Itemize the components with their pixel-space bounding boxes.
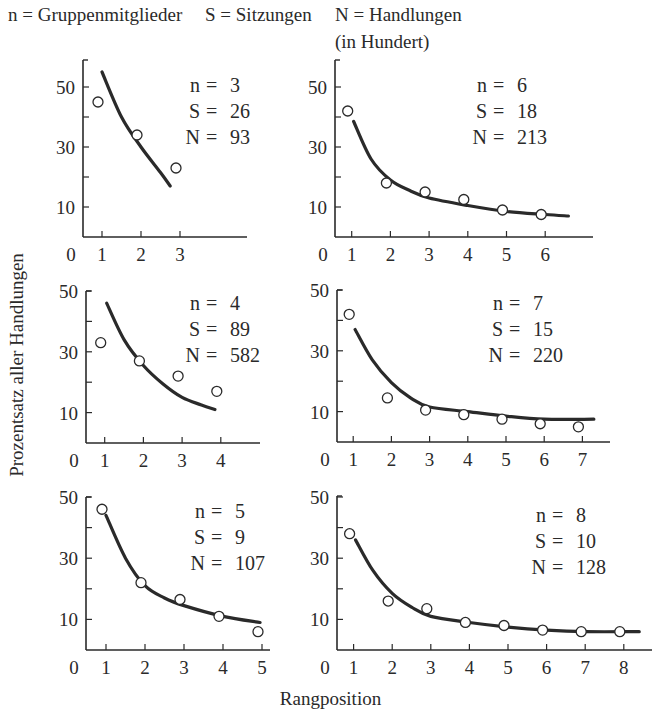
data-point xyxy=(253,627,263,637)
annotation-eq: = xyxy=(211,526,222,548)
y-tick-label: 50 xyxy=(56,77,75,98)
x-tick-label: 7 xyxy=(578,449,588,470)
data-point xyxy=(535,419,545,429)
data-point xyxy=(536,210,546,220)
x-tick-label: 6 xyxy=(540,244,550,265)
x-tick-label: 3 xyxy=(175,244,185,265)
y-tick-label: 10 xyxy=(310,609,329,630)
annotation-value: 3 xyxy=(230,74,240,96)
x-tick-label: 2 xyxy=(136,244,146,265)
y-tick-label: 30 xyxy=(310,548,329,569)
x-tick-label: 1 xyxy=(101,657,111,678)
data-point xyxy=(538,625,548,635)
x-tick-label: 3 xyxy=(177,450,187,471)
annotation-value: 6 xyxy=(517,74,527,96)
annotation-value: 582 xyxy=(230,344,260,366)
annotation-eq: = xyxy=(552,504,563,526)
x-tick-label: 4 xyxy=(463,449,473,470)
annotation-value: 7 xyxy=(533,292,543,314)
annotation-eq: = xyxy=(509,318,520,340)
data-point xyxy=(381,178,391,188)
y-tick-label: 50 xyxy=(308,77,327,98)
annotation-eq: = xyxy=(206,74,217,96)
data-point xyxy=(460,617,470,627)
fit-curve xyxy=(102,72,170,186)
data-point xyxy=(459,410,469,420)
annotation-eq: = xyxy=(206,318,217,340)
x-tick-label: 0 xyxy=(66,244,76,265)
annotation-eq: = xyxy=(493,126,504,148)
data-point xyxy=(615,627,625,637)
data-point xyxy=(93,97,103,107)
annotation-eq: = xyxy=(552,556,563,578)
data-point xyxy=(344,309,354,319)
data-point xyxy=(97,504,107,514)
annotation-eq: = xyxy=(493,100,504,122)
annotation-key: N xyxy=(473,126,487,148)
y-tick-label: 10 xyxy=(59,609,78,630)
annotation-key: n xyxy=(477,74,487,96)
x-tick-label: 0 xyxy=(69,450,79,471)
annotation-key: n xyxy=(190,292,200,314)
x-tick-label: 0 xyxy=(69,657,79,678)
annotation-value: 128 xyxy=(576,556,606,578)
data-point xyxy=(343,106,353,116)
y-tick-label: 10 xyxy=(59,403,78,424)
data-point xyxy=(499,621,509,631)
x-tick-label: 1 xyxy=(100,450,110,471)
x-tick-label: 0 xyxy=(318,244,328,265)
data-point xyxy=(173,371,183,381)
x-tick-label: 5 xyxy=(503,657,513,678)
annotation-eq: = xyxy=(552,530,563,552)
data-point xyxy=(175,595,185,605)
annotation-eq: = xyxy=(206,344,217,366)
data-point xyxy=(383,596,393,606)
data-point xyxy=(497,414,507,424)
data-point xyxy=(573,422,583,432)
x-tick-label: 0 xyxy=(320,657,330,678)
x-tick-label: 2 xyxy=(139,450,149,471)
x-tick-label: 4 xyxy=(216,450,226,471)
y-tick-label: 50 xyxy=(310,280,329,301)
y-tick-label: 30 xyxy=(308,137,327,158)
panel-row1-left: 1030500123n=3S=26N=93 xyxy=(56,60,250,265)
data-point xyxy=(459,195,469,205)
panel-row2-left: 10305001234n=4S=89N=582 xyxy=(59,281,260,471)
x-tick-label: 2 xyxy=(140,657,150,678)
x-tick-label: 5 xyxy=(502,244,512,265)
annotation-key: S xyxy=(476,100,487,122)
data-point xyxy=(212,386,222,396)
y-tick-label: 30 xyxy=(59,548,78,569)
annotation-value: 213 xyxy=(517,126,547,148)
x-tick-label: 2 xyxy=(387,449,397,470)
annotation-eq: = xyxy=(206,126,217,148)
y-tick-label: 50 xyxy=(310,487,329,508)
data-point xyxy=(96,338,106,348)
x-tick-label: 8 xyxy=(619,657,629,678)
y-tick-label: 30 xyxy=(59,342,78,363)
annotation-key: S xyxy=(189,100,200,122)
y-tick-label: 10 xyxy=(56,197,75,218)
fit-curve xyxy=(355,330,594,420)
annotation-key: N xyxy=(186,344,200,366)
x-tick-label: 4 xyxy=(463,244,473,265)
x-tick-label: 1 xyxy=(349,657,359,678)
data-point xyxy=(345,529,355,539)
data-point xyxy=(421,405,431,415)
annotation-key: N xyxy=(489,344,503,366)
data-point xyxy=(132,130,142,140)
annotation-value: 89 xyxy=(230,318,250,340)
annotation-key: N xyxy=(532,556,546,578)
annotation-key: N xyxy=(191,552,205,574)
annotation-eq: = xyxy=(509,292,520,314)
annotation-value: 26 xyxy=(230,100,250,122)
annotation-value: 107 xyxy=(235,552,265,574)
data-point xyxy=(498,205,508,215)
y-tick-label: 50 xyxy=(59,487,78,508)
annotation-key: N xyxy=(186,126,200,148)
data-point xyxy=(134,356,144,366)
annotation-value: 5 xyxy=(235,500,245,522)
x-tick-label: 2 xyxy=(386,244,396,265)
annotation-value: 8 xyxy=(576,504,586,526)
x-tick-label: 2 xyxy=(387,657,397,678)
